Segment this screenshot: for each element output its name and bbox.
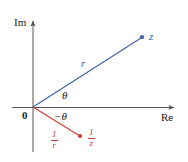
reciprocal-point-label: 1 z <box>88 128 95 149</box>
angle-negative-theta-label: −θ <box>54 111 67 122</box>
reciprocal-modulus-label: 1 r <box>51 130 58 151</box>
imaginary-axis-label: Im <box>14 17 26 28</box>
angle-theta-label: θ <box>62 90 67 101</box>
reciprocal-point-numerator: 1 <box>88 128 95 137</box>
z-ray <box>33 38 141 107</box>
real-axis-label: Re <box>161 112 173 123</box>
complex-plane-figure: Im Re 0 z r θ −θ 1 r 1 z <box>0 0 188 162</box>
z-point-marker <box>140 35 144 39</box>
modulus-r-label: r <box>81 58 85 69</box>
origin-label: 0 <box>22 110 28 121</box>
reciprocal-modulus-denominator: r <box>51 141 58 150</box>
reciprocal-point-denominator: z <box>88 139 95 148</box>
reciprocal-modulus-numerator: 1 <box>51 130 58 139</box>
z-point-label: z <box>149 31 153 42</box>
reciprocal-point-marker <box>78 134 82 138</box>
